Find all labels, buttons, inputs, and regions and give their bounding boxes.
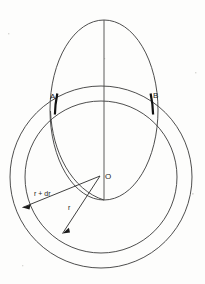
outer-radius-arrowhead (23, 205, 31, 210)
inner-circle (25, 101, 177, 253)
paper-speck (192, 193, 194, 195)
label-point-b: B (153, 91, 158, 100)
paper-speck (8, 33, 9, 34)
paper-speck (22, 265, 23, 266)
ellipse-back-arc (51, 111, 105, 200)
outer-circle (10, 86, 192, 268)
label-outer-radius: r + dr (34, 190, 51, 197)
diagram-svg: A B O r + dr r (0, 0, 205, 284)
label-inner-radius: r (68, 204, 71, 211)
label-point-a: A (50, 92, 56, 101)
paper-speck (195, 72, 196, 73)
label-center-o: O (105, 172, 111, 181)
diagram-canvas: A B O r + dr r (0, 0, 205, 284)
